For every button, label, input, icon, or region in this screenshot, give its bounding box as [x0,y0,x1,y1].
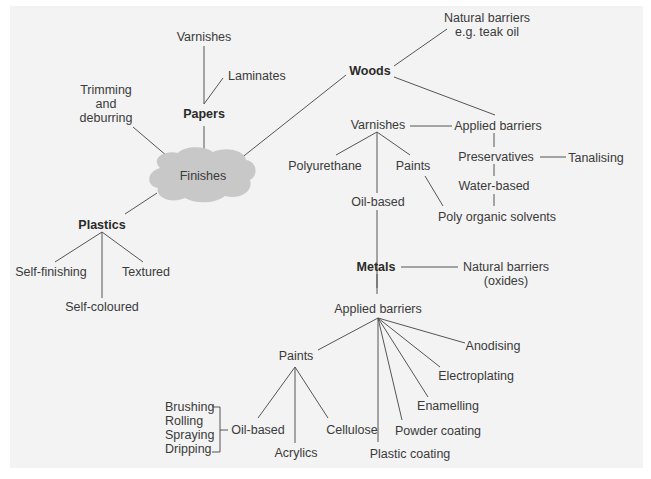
node-self-coloured: Self-coloured [65,300,139,314]
line-trimming-finishes [133,127,167,156]
method-rolling: Rolling [165,414,203,428]
node-textured: Textured [122,265,170,279]
node-powder-coating: Powder coating [395,424,481,438]
node-self-finishing: Self-finishing [15,265,87,279]
node-water-based: Water-based [458,179,529,193]
node-polyurethane: Polyurethane [288,159,362,173]
node-cellulose: Cellulose [326,423,377,437]
line-applied-paints [318,318,378,350]
node-metals-natural-line-1: Natural barriers [463,260,549,274]
labels: Finishes Varnishes Laminates Papers Trim… [15,11,624,461]
node-woods-varnishes: Varnishes [351,118,406,132]
node-woods: Woods [349,64,390,78]
line-applied-powder [378,318,402,420]
node-metals-natural-line-2: (oxides) [484,274,528,288]
mind-map: Finishes Varnishes Laminates Papers Trim… [0,0,651,479]
node-woods-oil-based: Oil-based [351,195,405,209]
line-varnishes-paints [377,132,410,155]
method-spraying: Spraying [165,428,214,442]
node-metals: Metals [357,260,396,274]
node-trimming-line-2: and [96,97,117,111]
line-varnishes-polyurethane [336,132,377,155]
node-poly-organic-solvents: Poly organic solvents [438,210,556,224]
node-enamelling: Enamelling [417,399,479,413]
method-brushing: Brushing [165,400,214,414]
line-plastics-selffinishing [55,232,102,262]
node-woods-natural-line-1: Natural barriers [444,11,530,25]
line-woods-applied [394,77,495,115]
node-woods-applied-barriers: Applied barriers [454,119,542,133]
line-finishes-plastics [125,193,157,214]
node-papers: Papers [183,107,225,121]
line-papers-laminates [204,78,223,104]
node-plastic-coating: Plastic coating [370,447,451,461]
node-tanalising: Tanalising [568,151,624,165]
node-laminates: Laminates [228,69,286,83]
node-paints-oil-based: Oil-based [231,423,285,437]
node-metals-applied-barriers: Applied barriers [334,302,422,316]
line-paints-cellulose [295,367,328,418]
node-finishes: Finishes [180,169,227,183]
node-papers-varnishes: Varnishes [177,30,232,44]
method-dripping: Dripping [165,442,212,456]
node-plastics: Plastics [78,218,125,232]
line-paints-polyorganic [425,176,443,206]
node-preservatives: Preservatives [458,150,534,164]
node-anodising: Anodising [466,339,521,353]
line-woods-natural [394,29,447,66]
node-woods-natural-line-2: e.g. teak oil [455,25,519,39]
node-metals-paints: Paints [279,349,314,363]
node-trimming-line-3: deburring [80,111,133,125]
node-woods-paints: Paints [396,159,431,173]
node-electroplating: Electroplating [438,369,514,383]
node-trimming-line-1: Trimming [80,83,132,97]
line-plastics-textured [102,232,143,262]
line-paints-oilbased [258,367,295,418]
node-acrylics: Acrylics [274,446,317,460]
line-finishes-woods [240,75,346,159]
